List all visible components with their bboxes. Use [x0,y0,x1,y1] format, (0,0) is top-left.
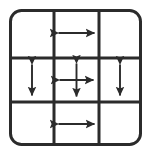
grid-diagram-svg [0,0,151,156]
diagram-canvas [0,0,151,156]
